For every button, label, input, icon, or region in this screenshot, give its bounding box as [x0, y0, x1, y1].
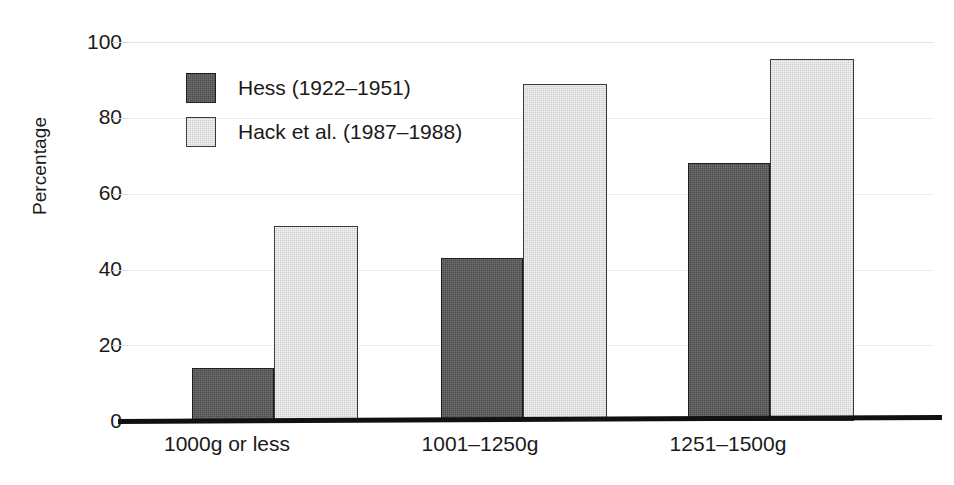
bar-hack-1001-1250g: [523, 84, 607, 421]
bar-hess-1000g-or-less: [192, 368, 274, 421]
bar-hess-1251-1500g: [688, 163, 770, 421]
legend-label-hack: Hack et al. (1987–1988): [238, 120, 462, 144]
y-axis-tick-labels: 100 80 60 40 20 0: [60, 0, 122, 485]
legend-item-hess: Hess (1922–1951): [186, 66, 462, 110]
y-axis-label: Percentage: [29, 76, 51, 256]
y-tick-60: 60: [62, 182, 122, 203]
legend-item-hack: Hack et al. (1987–1988): [186, 110, 462, 154]
y-tick-80: 80: [62, 106, 122, 127]
legend-swatch-hack: [186, 117, 216, 147]
bar-hack-1251-1500g: [770, 59, 854, 421]
bar-chart-figure: Percentage 100 80 60 40 20 0 1000g or le…: [0, 0, 954, 485]
legend-label-hess: Hess (1922–1951): [238, 76, 411, 100]
x-tick-label-1251-1500g: 1251–1500g: [633, 432, 823, 456]
legend-swatch-hess: [186, 73, 216, 103]
bar-hess-1001-1250g: [441, 258, 523, 421]
legend: Hess (1922–1951) Hack et al. (1987–1988): [186, 66, 462, 154]
gridline-100: [128, 42, 934, 43]
x-tick-label-1000g-or-less: 1000g or less: [132, 432, 322, 456]
y-tick-40: 40: [62, 258, 122, 279]
y-tick-0: 0: [62, 410, 122, 431]
bar-hack-1000g-or-less: [274, 226, 358, 421]
x-tick-label-1001-1250g: 1001–1250g: [385, 432, 575, 456]
